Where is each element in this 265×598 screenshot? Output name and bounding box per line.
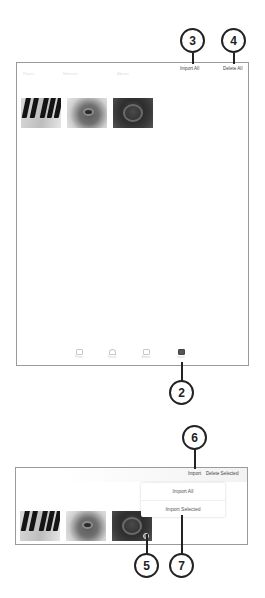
albums-icon [143, 349, 150, 355]
photo-thumbnail-piano[interactable] [21, 98, 61, 128]
photo-thumbnail-guitar[interactable] [67, 98, 107, 128]
tab-photos[interactable]: Photos [69, 349, 89, 359]
callout-leader-7 [181, 515, 183, 554]
photo-thumbnail-dark-guitar[interactable] [113, 98, 153, 128]
tab-label: Albums [142, 356, 151, 359]
bottom-toolbar: Import Delete Selected [16, 468, 247, 482]
delete-selected-button[interactable]: Delete Selected [206, 471, 238, 476]
tab-import[interactable]: Import [171, 349, 191, 359]
callout-3: 3 [180, 28, 205, 53]
callout-7: 7 [169, 553, 194, 578]
tab-label: Shared [108, 356, 116, 359]
import-button[interactable]: Import [188, 471, 201, 476]
tab-albums[interactable]: Albums [136, 349, 156, 359]
faint-tab-albums: Albums [117, 72, 129, 76]
import-popup-menu: Import All Import Selected [141, 483, 225, 517]
top-toolbar: Photos Moments Albums Import All Delete … [17, 63, 248, 79]
callout-leader-6 [194, 447, 196, 469]
faint-tab-photos: Photos [23, 72, 34, 76]
callout-2: 2 [169, 380, 194, 405]
photos-icon [76, 349, 83, 355]
tab-label: Import [177, 356, 184, 359]
callout-4: 4 [221, 28, 246, 53]
faint-tab-moments: Moments [63, 72, 77, 76]
callout-6: 6 [182, 425, 207, 450]
bottom-tab-bar: Photos Shared Albums Import [17, 345, 248, 365]
import-camera-icon [178, 349, 185, 355]
import-all-button[interactable]: Import All [180, 66, 199, 71]
callout-5: 5 [134, 553, 159, 578]
photo-grid-bottom: ✓ [20, 511, 152, 541]
callout-leader-5 [146, 534, 148, 554]
callout-leader-4 [233, 53, 235, 64]
photo-thumbnail-piano[interactable] [20, 511, 60, 541]
delete-all-button[interactable]: Delete All [223, 66, 242, 71]
popup-import-selected[interactable]: Import Selected [141, 500, 225, 517]
photo-grid [21, 98, 153, 128]
tab-label: Photos [75, 356, 83, 359]
photo-thumbnail-guitar[interactable] [66, 511, 106, 541]
tab-shared[interactable]: Shared [102, 349, 122, 359]
popup-import-all[interactable]: Import All [141, 483, 225, 500]
cloud-icon [109, 349, 116, 355]
import-screen-top: Photos Moments Albums Import All Delete … [16, 62, 249, 366]
callout-leader-2 [181, 362, 183, 382]
callout-leader-3 [192, 53, 194, 64]
import-screen-bottom: Import Delete Selected ✓ Import All Impo… [15, 467, 248, 545]
